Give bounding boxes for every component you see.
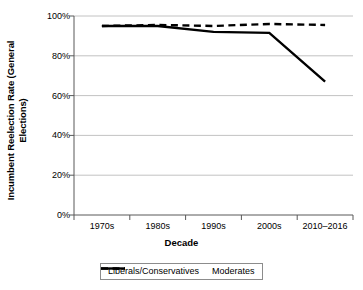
x-axis-title: Decade [0,237,363,248]
line-chart: Incumbent Reelection Rate (General Elect… [0,0,363,290]
chart-legend: Liberals/Conservatives Moderates [100,263,263,280]
series-line-moderates [102,26,325,82]
x-tick-label-1990s: 1990s [201,221,226,231]
gridlines [74,16,353,175]
x-axis-tick-labels: 1970s 1980s 1990s 2000s 2010–2016 [0,221,363,235]
x-tick-label-2000s: 2000s [257,221,282,231]
x-tick-label-2010-2016: 2010–2016 [303,221,348,231]
legend-item-moderates: Moderates [212,266,255,276]
x-tick-label-1980s: 1980s [145,221,170,231]
legend-label-moderates: Moderates [212,266,255,276]
x-tick-label-1970s: 1970s [90,221,115,231]
y-axis [69,16,74,215]
legend-swatch-solid-icon [101,264,125,273]
x-axis [74,215,353,220]
